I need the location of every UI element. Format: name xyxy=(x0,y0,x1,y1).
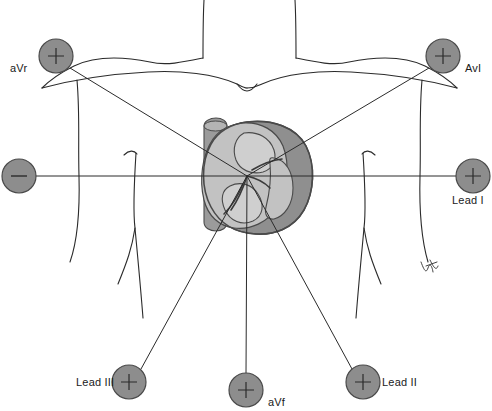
label-avf: aVf xyxy=(268,396,285,408)
electrode-lead-i[interactable] xyxy=(456,159,490,193)
neck-left-line xyxy=(203,0,204,58)
electrode-avf[interactable] xyxy=(229,373,263,407)
diagram-canvas xyxy=(0,0,492,411)
right-arm-contour xyxy=(420,80,428,262)
axis-line-lead-iii xyxy=(141,176,247,369)
axis-line-avl xyxy=(247,68,429,176)
label-lead-i: Lead I xyxy=(452,194,484,206)
left-rib-hook xyxy=(124,151,137,155)
label-lead-iii: Lead III xyxy=(76,376,114,388)
right-rib-branch xyxy=(364,228,381,284)
right-rib-hook xyxy=(362,151,375,155)
label-avl: AvI xyxy=(465,62,481,74)
right-clavicle-line xyxy=(247,72,457,89)
label-lead-ii: Lead II xyxy=(382,376,417,388)
left-arm-contour xyxy=(70,80,79,262)
electrode-lead-iii[interactable] xyxy=(112,365,146,399)
label-avr: aVr xyxy=(10,62,27,74)
right-rib-line xyxy=(356,153,365,318)
artist-signature-mark xyxy=(421,260,438,272)
left-clavicle-line xyxy=(42,72,247,89)
electrode-avr[interactable] xyxy=(39,39,73,73)
left-rib-branch xyxy=(118,228,135,284)
electrode-lead-ii[interactable] xyxy=(346,365,380,399)
electrode-avl[interactable] xyxy=(426,39,460,73)
electrode-lead-i-negative[interactable] xyxy=(2,159,36,193)
neck-right-line xyxy=(295,0,296,58)
left-rib-line xyxy=(134,153,143,318)
ecg-lead-axis-diagram: aVr AvI Lead I Lead III aVf Lead II xyxy=(0,0,492,411)
